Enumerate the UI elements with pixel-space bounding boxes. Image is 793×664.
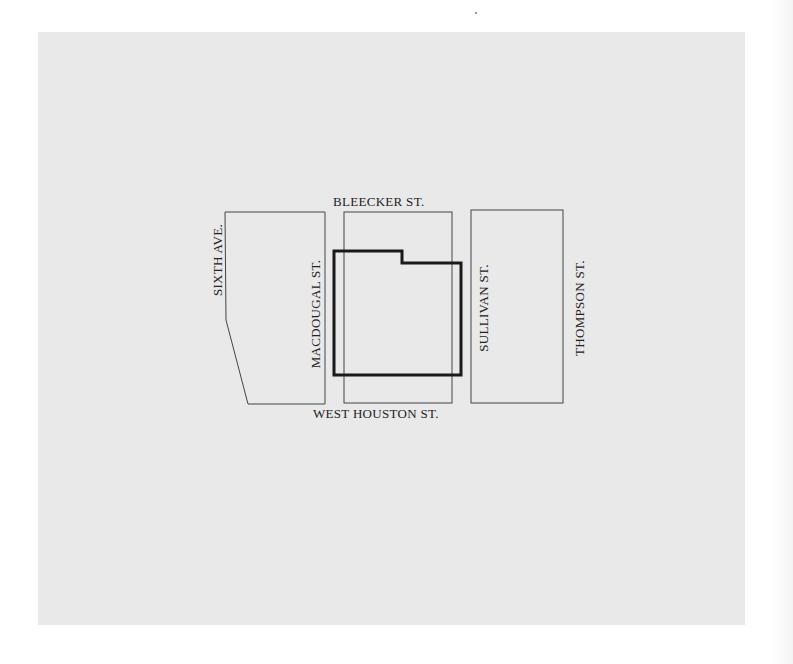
street-label-macdougal: MACDOUGAL ST.	[308, 254, 324, 374]
street-label-bleecker: BLEECKER ST.	[333, 194, 424, 210]
street-label-thompson: THOMPSON ST.	[572, 248, 588, 368]
street-label-west-houston: WEST HOUSTON ST.	[313, 406, 439, 422]
street-map	[0, 0, 793, 664]
street-label-sixth-ave: SIXTH AVE.	[210, 220, 226, 300]
highlighted-site-outline	[334, 251, 461, 375]
street-label-sullivan: SULLIVAN ST.	[476, 258, 492, 358]
